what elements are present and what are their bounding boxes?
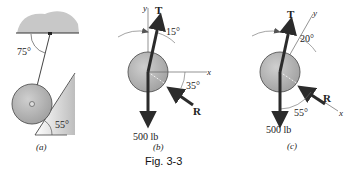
panel-c: y x 20° T R 55° 500 lb (c) [252,8,343,151]
angle-label-20: 20° [300,33,314,44]
y-axis-label: y [142,3,147,13]
panel-a: 75° 55° (a) [12,11,79,152]
weight-label: 500 lb [266,124,291,135]
reaction-arrow [301,88,325,104]
x-axis-label: x [338,108,343,118]
angle-arc-35 [181,72,185,88]
x-axis-label: x [206,67,211,77]
figure-caption: Fig. 3-3 [145,155,182,167]
reaction-label: R [323,92,332,104]
panel-a-label: (a) [36,142,47,152]
panel-b-label: (b) [153,142,164,152]
panel-b: y x 15° T 35° R 500 lb (b) [118,3,211,152]
y-axis-label: y [312,8,317,18]
angle-label-35: 35° [186,80,200,91]
panel-c-label: (c) [287,141,297,151]
angle-label-55: 55° [294,107,308,118]
reaction-arrow [170,89,193,105]
weight-label: 500 lb [133,131,158,142]
angle-label-15: 15° [166,26,180,37]
figure-canvas: 75° 55° (a) y x 15° T 35° R [0,0,354,176]
wheel-hub [30,102,35,107]
angle-arc-15 [118,31,148,37]
angle-arc-75 [31,34,45,53]
angle-arc-20 [252,31,280,36]
angle-label-75: 75° [17,46,31,57]
tension-label: T [155,4,163,16]
ceiling-support [17,11,79,33]
reaction-label: R [193,105,202,117]
angle-label-55-incline: 55° [55,119,69,130]
tension-label: T [287,8,295,20]
